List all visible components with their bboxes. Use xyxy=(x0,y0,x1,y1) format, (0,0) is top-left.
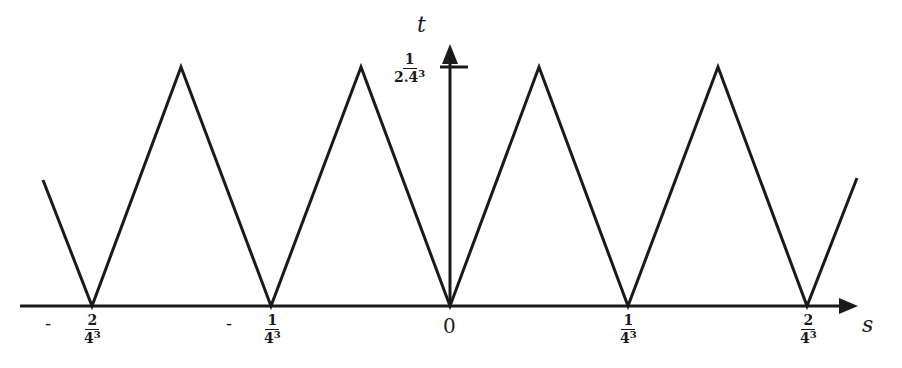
s-tick-sign: - xyxy=(226,313,232,334)
s-tick-denominator: 43 xyxy=(84,330,101,346)
s-tick-den-base: 4 xyxy=(620,330,630,346)
s-tick-denominator: 43 xyxy=(620,330,637,346)
s-tick-den-exp: 3 xyxy=(274,329,281,340)
triangle-wave-plot xyxy=(0,0,902,368)
s-axis-label: s xyxy=(862,312,873,337)
t-tick-denominator: 2.43 xyxy=(394,69,425,85)
s-tick-label-pos1: 1 43 xyxy=(620,313,637,346)
s-tick-sign: - xyxy=(45,313,51,334)
s-tick-numerator: 1 xyxy=(621,313,635,330)
s-tick-den-base: 4 xyxy=(800,330,810,346)
s-tick-den-base: 4 xyxy=(84,330,94,346)
t-tick-numerator: 1 xyxy=(403,52,417,69)
s-tick-label-neg2: 2 43 xyxy=(84,313,101,346)
t-axis-label: t xyxy=(417,12,426,37)
t-tick-label: 1 2.43 xyxy=(394,52,425,85)
s-tick-den-base: 4 xyxy=(264,330,274,346)
s-tick-label-pos2: 2 43 xyxy=(800,313,817,346)
s-tick-denominator: 43 xyxy=(264,330,281,346)
t-tick-den-base: 2.4 xyxy=(394,69,418,85)
s-tick-den-exp: 3 xyxy=(810,329,817,340)
s-tick-numerator: 2 xyxy=(801,313,815,330)
s-tick-denominator: 43 xyxy=(800,330,817,346)
s-tick-den-exp: 3 xyxy=(630,329,637,340)
s-tick-label-zero: 0 xyxy=(443,314,456,338)
s-axis-arrow-icon xyxy=(839,298,858,314)
s-tick-label-neg1: 1 43 xyxy=(264,313,281,346)
s-tick-numerator: 1 xyxy=(265,313,279,330)
s-tick-den-exp: 3 xyxy=(94,329,101,340)
t-axis-arrow-icon xyxy=(442,44,458,64)
t-tick-den-exp: 3 xyxy=(418,68,425,79)
s-tick-numerator: 2 xyxy=(85,313,99,330)
